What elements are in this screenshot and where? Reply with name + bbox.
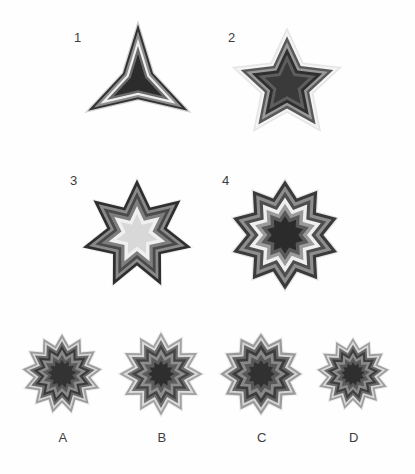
figure-2[interactable] [221,19,353,151]
option-a[interactable] [12,324,112,424]
figure-3[interactable] [71,169,203,301]
figure-4[interactable] [220,170,350,300]
option-b-graphic [109,322,213,426]
answer-option-label-D[interactable]: D [347,430,361,445]
answer-option-label-B[interactable]: B [155,430,169,445]
figure-2-graphic [221,19,353,151]
figure-number-label-4: 4 [222,173,230,188]
option-d[interactable] [307,328,399,420]
option-c[interactable] [210,323,312,425]
puzzle-root: 1234 ABCD [0,0,415,474]
answer-option-label-A[interactable]: A [56,430,70,445]
figure-1-graphic [68,12,208,152]
option-b[interactable] [109,322,213,426]
option-c-graphic [210,323,312,425]
figure-3-graphic [71,169,203,301]
option-a-graphic [12,324,112,424]
option-d-graphic [307,328,399,420]
figure-number-label-3: 3 [70,173,78,188]
figure-1[interactable] [68,12,208,152]
figure-number-label-2: 2 [228,30,236,45]
answer-option-label-C[interactable]: C [255,430,269,445]
figure-number-label-1: 1 [74,30,82,45]
figure-4-graphic [220,170,350,300]
